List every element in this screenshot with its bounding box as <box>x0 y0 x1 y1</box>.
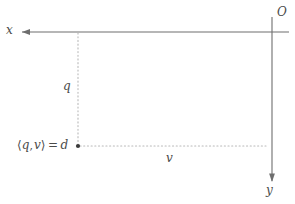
x-axis-group <box>22 29 289 35</box>
equation-operator: = <box>48 138 58 152</box>
x-axis-arrowhead-icon <box>22 29 30 35</box>
y-axis-label: y <box>266 184 273 196</box>
diagram-svg <box>0 0 295 204</box>
equation-term-v: v <box>34 138 41 152</box>
intersection-point-marker <box>76 144 80 148</box>
diagram-canvas: x O y q v ⟨q, v⟩ = d <box>0 0 295 204</box>
horizontal-guide-label: v <box>166 152 173 164</box>
x-axis-label: x <box>6 24 13 36</box>
vertical-guide-label: q <box>63 80 71 92</box>
origin-label: O <box>277 6 287 18</box>
y-axis-arrowhead-icon <box>269 174 275 183</box>
y-axis-group <box>269 17 275 182</box>
equation-result: d <box>60 138 68 152</box>
equation-separator: , <box>29 139 33 152</box>
angle-bracket-close: ⟩ <box>41 138 46 152</box>
inner-product-equation: ⟨q, v⟩ = d <box>17 139 68 151</box>
